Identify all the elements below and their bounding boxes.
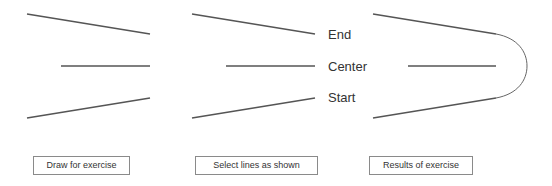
end-line xyxy=(192,14,315,34)
label-center: Center xyxy=(328,60,367,73)
bottom-line xyxy=(373,98,496,118)
start-line xyxy=(192,98,315,118)
bottom-line xyxy=(27,98,150,118)
panel-results-lines xyxy=(373,14,527,118)
caption-select-lines: Select lines as shown xyxy=(195,156,318,175)
caption-results-of-exercise: Results of exercise xyxy=(369,156,473,175)
panel-draw-lines xyxy=(27,14,150,118)
panel-select-lines xyxy=(192,14,315,118)
label-end: End xyxy=(328,28,351,41)
top-line xyxy=(27,14,150,34)
top-line xyxy=(373,14,496,34)
fillet-arc xyxy=(496,34,527,98)
label-start: Start xyxy=(328,91,355,104)
caption-draw-for-exercise: Draw for exercise xyxy=(33,156,130,175)
